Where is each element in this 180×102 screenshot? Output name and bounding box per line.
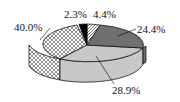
pie-chart: 2.3% 4.4% 24.4% 28.9% 40.0% <box>0 0 180 102</box>
slice-label-4-4: 4.4% <box>93 9 116 20</box>
pie-chart-graphic <box>0 0 180 102</box>
slice-label-24-4: 24.4% <box>137 24 165 35</box>
slice-label-2-3: 2.3% <box>64 9 87 20</box>
slice-label-28-9: 28.9% <box>112 85 140 96</box>
slice-label-40-0: 40.0% <box>14 22 42 33</box>
